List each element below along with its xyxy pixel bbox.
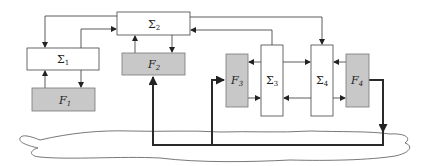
network-cloud <box>20 131 410 162</box>
block-sigma4: Σ4 <box>311 45 333 116</box>
block-sigma2: Σ2 <box>117 12 190 35</box>
block-f2: F2 <box>122 53 185 75</box>
block-sigma1: Σ1 <box>27 48 99 70</box>
block-diagram: Σ2 Σ1 F1 F2 F3 Σ3 Σ4 F4 <box>0 0 429 166</box>
block-f3: F3 <box>226 54 248 107</box>
block-f1: F1 <box>32 88 95 111</box>
block-f4: F4 <box>346 54 369 107</box>
block-sigma3: Σ3 <box>261 45 283 116</box>
